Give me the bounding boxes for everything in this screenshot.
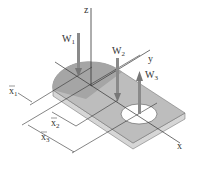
w2-label: W2	[112, 45, 125, 58]
y-axis	[55, 50, 150, 64]
x1-dimension	[18, 93, 32, 102]
x3-dimension	[28, 125, 74, 152]
z-axis-label: z	[84, 4, 89, 15]
x2-label: x2	[51, 117, 60, 130]
x-axis-label: x	[177, 140, 182, 151]
w1-label: W1	[62, 33, 75, 46]
y-axis-label: y	[148, 53, 153, 64]
w1-arrow	[75, 33, 82, 77]
plate-diagram: z y x W1 W2 W3 x1 x2 x3	[0, 0, 198, 169]
x3-label: x3	[41, 131, 50, 144]
x1-label: x1	[9, 85, 18, 98]
w3-label: W3	[145, 69, 158, 82]
